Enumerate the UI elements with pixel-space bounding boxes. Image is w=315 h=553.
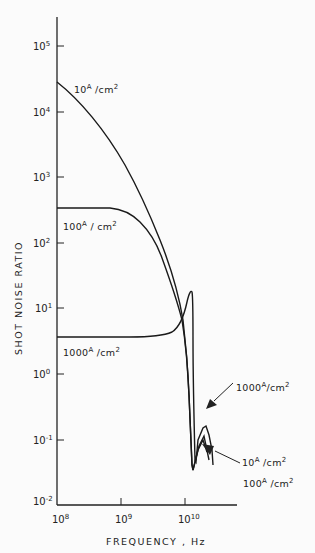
curve-10a [57,82,207,470]
label-100a-right: 100A /cm2 [243,477,294,489]
y-tick-labels: 105 104 103 102 101 100 10-1 10-2 [33,40,53,507]
y-tick-1em2: 10-2 [33,495,53,507]
curves [57,82,213,470]
curve-100a [57,208,209,470]
curve-labels: 10A /cm2 100A / cm2 1000A /cm2 1000A/cm2… [63,83,294,489]
label-1000a-left: 1000A /cm2 [63,346,120,358]
x-tick-1e9: 109 [115,513,132,525]
y-tick-1em1: 10-1 [33,434,53,446]
y-tick-1e3: 103 [33,171,50,183]
x-tick-1e8: 108 [52,513,69,525]
y-tick-1e1: 101 [35,302,52,314]
shot-noise-chart: 105 104 103 102 101 100 10-1 10-2 108 10… [0,0,315,553]
y-tick-1e2: 102 [33,237,50,249]
y-tick-1e5: 105 [33,40,50,52]
label-1000a-right: 1000A/cm2 [236,381,290,393]
label-10a-right: 10A /cm2 [242,456,286,468]
x-tick-labels: 108 109 1010 [52,513,200,525]
curve-1000a [57,291,213,465]
y-axis-title: SHOT NOISE RATIO [13,241,24,355]
x-axis-title: FREQUENCY , Hz [106,536,206,547]
y-tick-1e4: 104 [33,106,51,118]
x-tick-1e10: 1010 [178,513,200,525]
label-10a-left: 10A /cm2 [74,83,118,95]
label-100a-left: 100A / cm2 [63,220,117,232]
y-tick-1e0: 100 [33,368,50,380]
annotation-arrows [202,383,240,463]
